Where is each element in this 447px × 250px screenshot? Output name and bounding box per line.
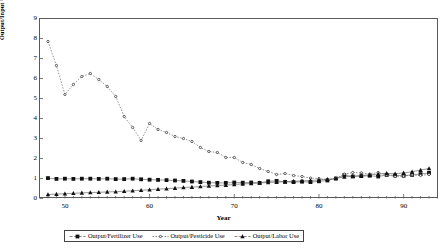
data-point (191, 140, 193, 142)
data-point (182, 179, 186, 183)
y-tick-label: 9 (21, 15, 37, 22)
data-point (225, 156, 227, 158)
data-point (284, 172, 286, 174)
data-point (157, 128, 159, 130)
data-point (208, 150, 210, 152)
data-point (47, 40, 49, 42)
data-point (123, 115, 125, 117)
data-point (394, 175, 396, 177)
x-tick-label: 80 (309, 202, 329, 210)
data-point (173, 179, 177, 183)
data-series-layer (46, 40, 431, 196)
y-tick-label: 2 (21, 155, 37, 162)
data-point (139, 177, 143, 181)
data-point (352, 171, 354, 173)
data-point (46, 176, 50, 180)
series-3 (46, 166, 431, 196)
data-point (275, 173, 277, 175)
data-point (55, 177, 59, 181)
y-axis-title: Output/Input Use (1982 = 100) (0, 0, 5, 40)
chart-canvas (0, 0, 447, 250)
data-point (216, 151, 218, 153)
data-point (105, 177, 109, 181)
data-point (88, 177, 92, 181)
legend-entry-1: Output/Fertilizer Use (69, 232, 143, 240)
data-point (131, 177, 135, 181)
data-point (81, 75, 83, 77)
data-point (428, 173, 430, 175)
data-point (55, 64, 57, 66)
data-point (250, 163, 252, 165)
legend-marker-filled-square-icon (69, 233, 86, 240)
data-point (242, 161, 244, 163)
data-point (89, 72, 91, 74)
chart-figure: 0123456789 Output/Input Use (1982 = 100)… (0, 0, 447, 250)
data-point (106, 85, 108, 87)
data-point (402, 175, 404, 177)
data-point (72, 83, 74, 85)
y-tick-label: 7 (21, 55, 37, 62)
x-tick-label: 70 (224, 202, 244, 210)
x-axis-title: Year (0, 214, 447, 222)
data-point (267, 170, 269, 172)
series-1 (46, 171, 431, 185)
data-point (292, 174, 294, 176)
data-point (419, 174, 421, 176)
data-point (190, 180, 194, 184)
legend-entry-3: Output/Labor Use (234, 232, 299, 240)
data-point (140, 139, 142, 141)
legend-marker-filled-triangle-icon (234, 233, 251, 240)
data-point (114, 177, 118, 181)
data-point (71, 177, 75, 181)
data-point (165, 131, 167, 133)
y-tick-label: 8 (21, 35, 37, 42)
y-tick-label: 3 (21, 135, 37, 142)
data-point (165, 178, 169, 182)
legend-label: Output/Pesticide Use (171, 232, 225, 240)
data-point (97, 177, 101, 181)
data-point (80, 177, 84, 181)
data-point (115, 95, 117, 97)
data-point (411, 174, 413, 176)
data-point (63, 177, 67, 181)
legend-label: Output/Fertilizer Use (88, 232, 143, 240)
y-tick-label: 6 (21, 75, 37, 82)
legend-entry-2: Output/Pesticide Use (152, 232, 225, 240)
data-point (182, 137, 184, 139)
y-tick-label: 0 (21, 195, 37, 202)
chart-legend: Output/Fertilizer UseOutput/Pesticide Us… (64, 230, 304, 242)
data-point (427, 166, 431, 170)
data-point (131, 126, 133, 128)
data-point (301, 175, 303, 177)
data-point (233, 156, 235, 158)
y-tick-label: 1 (21, 175, 37, 182)
data-point (174, 135, 176, 137)
data-point (64, 93, 66, 95)
x-tick-label: 90 (394, 202, 414, 210)
data-point (156, 178, 160, 182)
data-point (148, 122, 150, 124)
y-tick-label: 5 (21, 95, 37, 102)
y-axis-tick-labels: 0123456789 (17, 0, 37, 250)
data-point (148, 178, 152, 182)
data-point (122, 177, 126, 181)
legend-label: Output/Labor Use (253, 232, 299, 240)
data-point (259, 167, 261, 169)
data-point (198, 180, 202, 184)
x-tick-label: 60 (140, 202, 160, 210)
data-point (199, 146, 201, 148)
x-tick-label: 50 (55, 202, 75, 210)
data-point (98, 78, 100, 80)
y-tick-label: 4 (21, 115, 37, 122)
legend-marker-small-circle-icon (152, 233, 169, 240)
series-2 (47, 40, 430, 180)
